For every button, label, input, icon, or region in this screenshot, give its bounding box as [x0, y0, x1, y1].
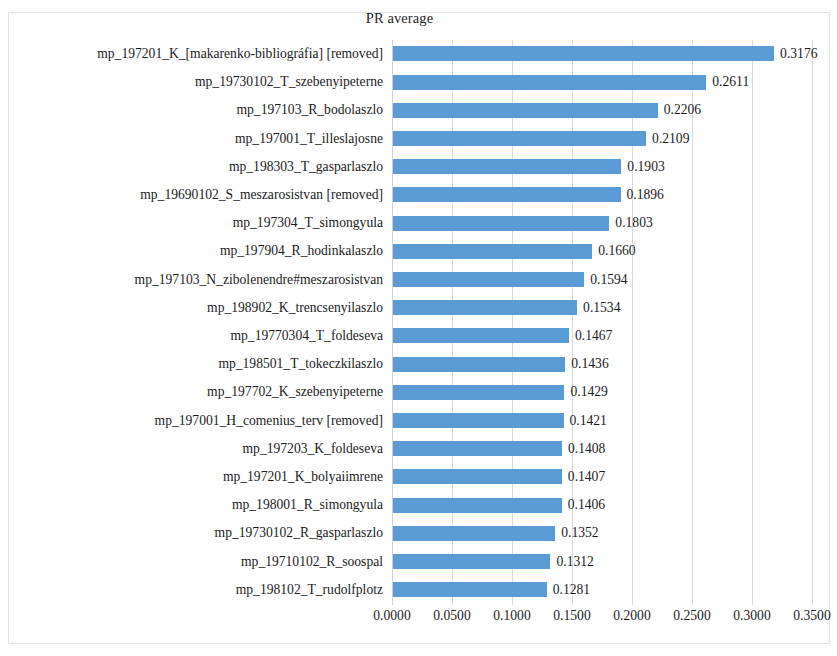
- bar-row[interactable]: mp_19690102_S_meszarosistvan [removed]0.…: [392, 181, 812, 209]
- bar-value-label: 0.1896: [627, 181, 664, 209]
- category-label: mp_197201_K_bolyaiimrene: [223, 463, 383, 491]
- bar-value-label: 0.2109: [652, 125, 689, 153]
- bar-row[interactable]: mp_19770304_T_foldeseva0.1467: [392, 322, 812, 350]
- bar[interactable]: [393, 216, 609, 231]
- plot-area: mp_197201_K_[makarenko-bibliográfia] [re…: [392, 40, 812, 605]
- bar[interactable]: [393, 328, 569, 343]
- chart-title: PR average: [0, 10, 837, 27]
- bar-value-label: 0.1803: [615, 209, 652, 237]
- bar[interactable]: [393, 187, 621, 202]
- x-axis-tick-labels: 0.00000.05000.10000.15000.20000.25000.30…: [392, 608, 812, 632]
- x-tick-label: 0.3500: [793, 608, 830, 624]
- x-tick-label: 0.1000: [493, 608, 530, 624]
- bar-row[interactable]: mp_198303_T_gasparlaszlo0.1903: [392, 153, 812, 181]
- category-label: mp_19710102_R_soospal: [241, 548, 383, 576]
- bar[interactable]: [393, 554, 550, 569]
- chart-title-text: PR average: [366, 10, 433, 27]
- bar-value-label: 0.2206: [664, 96, 701, 124]
- bar[interactable]: [393, 526, 555, 541]
- category-label: mp_19690102_S_meszarosistvan [removed]: [140, 181, 383, 209]
- category-label: mp_19730102_R_gasparlaszlo: [215, 519, 383, 547]
- category-label: mp_197103_N_zibolenendre#meszarosistvan: [135, 266, 383, 294]
- category-label: mp_197304_T_simongyula: [233, 209, 383, 237]
- bar-row[interactable]: mp_197702_K_szebenyipeterne0.1429: [392, 378, 812, 406]
- bar[interactable]: [393, 498, 562, 513]
- bar-value-label: 0.1406: [568, 491, 605, 519]
- bar[interactable]: [393, 272, 584, 287]
- bar[interactable]: [393, 300, 577, 315]
- category-label: mp_197001_H_comenius_terv [removed]: [155, 407, 383, 435]
- bar-row[interactable]: mp_198902_K_trencsenyilaszlo0.1534: [392, 294, 812, 322]
- bar[interactable]: [393, 413, 564, 428]
- bar-value-label: 0.1407: [568, 463, 605, 491]
- bar[interactable]: [393, 75, 706, 90]
- category-label: mp_197904_R_hodinkalaszlo: [220, 237, 383, 265]
- category-label: mp_198102_T_rudolfplotz: [236, 576, 383, 604]
- bar-row[interactable]: mp_19730102_R_gasparlaszlo0.1352: [392, 519, 812, 547]
- bar[interactable]: [393, 385, 564, 400]
- bar-value-label: 0.2611: [712, 68, 749, 96]
- category-label: mp_198902_K_trencsenyilaszlo: [207, 294, 383, 322]
- x-tick-label: 0.2500: [673, 608, 710, 624]
- bar-value-label: 0.3176: [780, 40, 817, 68]
- category-label: mp_197001_T_illeslajosne: [235, 125, 383, 153]
- bar-value-label: 0.1281: [553, 576, 590, 604]
- gridline-0.3500: [812, 40, 813, 605]
- x-tick-label: 0.2000: [613, 608, 650, 624]
- x-tick-label: 0.0000: [373, 608, 410, 624]
- bar-value-label: 0.1534: [583, 294, 620, 322]
- bar-row[interactable]: mp_19710102_R_soospal0.1312: [392, 548, 812, 576]
- bar-row[interactable]: mp_197904_R_hodinkalaszlo0.1660: [392, 237, 812, 265]
- bar-value-label: 0.1467: [575, 322, 612, 350]
- bar[interactable]: [393, 131, 646, 146]
- bar-value-label: 0.1594: [590, 266, 627, 294]
- bar-row[interactable]: mp_197103_R_bodolaszlo0.2206: [392, 96, 812, 124]
- category-label: mp_19730102_T_szebenyipeterne: [195, 68, 383, 96]
- x-tick-label: 0.0500: [433, 608, 470, 624]
- category-label: mp_198001_R_simongyula: [232, 491, 383, 519]
- bar-row[interactable]: mp_197001_H_comenius_terv [removed]0.142…: [392, 407, 812, 435]
- bar-row[interactable]: mp_19730102_T_szebenyipeterne0.2611: [392, 68, 812, 96]
- category-label: mp_197103_R_bodolaszlo: [236, 96, 383, 124]
- chart-canvas: PR average mp_197201_K_[makarenko-biblio…: [0, 0, 837, 656]
- bar-value-label: 0.1421: [570, 407, 607, 435]
- category-label: mp_197702_K_szebenyipeterne: [207, 378, 383, 406]
- bar-row[interactable]: mp_198102_T_rudolfplotz0.1281: [392, 576, 812, 604]
- bar-value-label: 0.1429: [570, 378, 607, 406]
- bar-row[interactable]: mp_198501_T_tokeczkilaszlo0.1436: [392, 350, 812, 378]
- bar-row[interactable]: mp_197201_K_bolyaiimrene0.1407: [392, 463, 812, 491]
- bar-value-label: 0.1352: [561, 519, 598, 547]
- bar[interactable]: [393, 357, 565, 372]
- bar[interactable]: [393, 244, 592, 259]
- x-tick-label: 0.1500: [553, 608, 590, 624]
- bar-row[interactable]: mp_197304_T_simongyula0.1803: [392, 209, 812, 237]
- bar-value-label: 0.1660: [598, 237, 635, 265]
- bar-row[interactable]: mp_197203_K_foldeseva0.1408: [392, 435, 812, 463]
- bar-row[interactable]: mp_197001_T_illeslajosne0.2109: [392, 125, 812, 153]
- bar-value-label: 0.1408: [568, 435, 605, 463]
- category-label: mp_197201_K_[makarenko-bibliográfia] [re…: [97, 40, 383, 68]
- bar[interactable]: [393, 469, 562, 484]
- bar-row[interactable]: mp_197201_K_[makarenko-bibliográfia] [re…: [392, 40, 812, 68]
- category-label: mp_19770304_T_foldeseva: [230, 322, 383, 350]
- bar-value-label: 0.1903: [627, 153, 664, 181]
- bar[interactable]: [393, 441, 562, 456]
- bar-row[interactable]: mp_198001_R_simongyula0.1406: [392, 491, 812, 519]
- bar[interactable]: [393, 582, 547, 597]
- bar-row[interactable]: mp_197103_N_zibolenendre#meszarosistvan0…: [392, 266, 812, 294]
- x-tick-label: 0.3000: [733, 608, 770, 624]
- bar-value-label: 0.1312: [556, 548, 593, 576]
- bar-rows: mp_197201_K_[makarenko-bibliográfia] [re…: [392, 40, 812, 605]
- bar[interactable]: [393, 159, 621, 174]
- category-label: mp_197203_K_foldeseva: [243, 435, 383, 463]
- category-label: mp_198501_T_tokeczkilaszlo: [218, 350, 383, 378]
- bar-value-label: 0.1436: [571, 350, 608, 378]
- bar[interactable]: [393, 46, 774, 61]
- bar[interactable]: [393, 103, 658, 118]
- category-label: mp_198303_T_gasparlaszlo: [229, 153, 383, 181]
